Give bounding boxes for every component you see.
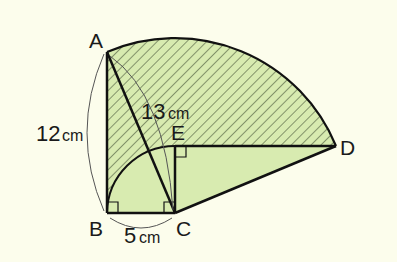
dimension-label-AB-value: 12 bbox=[36, 121, 60, 146]
geometry-diagram: A B C D E 12 cm 13 cm 5 cm bbox=[0, 0, 397, 262]
dimension-arc-BC bbox=[110, 218, 172, 228]
point-label-D: D bbox=[340, 136, 355, 159]
point-label-B: B bbox=[89, 217, 103, 240]
point-label-C: C bbox=[176, 217, 191, 240]
point-label-E: E bbox=[171, 121, 185, 144]
point-label-A: A bbox=[89, 29, 103, 52]
dimension-label-BC-value: 5 bbox=[124, 223, 136, 248]
dimension-label-AC-unit: cm bbox=[168, 105, 189, 122]
dimension-label-BC-unit: cm bbox=[139, 229, 160, 246]
dimension-label-AC-value: 13 bbox=[141, 99, 165, 124]
solid-region bbox=[107, 146, 336, 213]
dimension-arc-AB bbox=[87, 54, 104, 211]
dimension-label-AB-unit: cm bbox=[62, 127, 83, 144]
